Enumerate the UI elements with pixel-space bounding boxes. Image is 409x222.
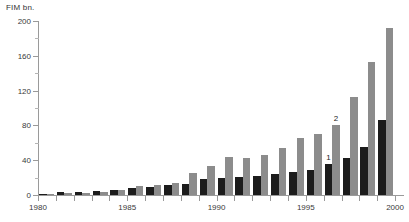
bar-series-2 [154,185,161,195]
x-axis-tick [145,196,146,201]
bar-series-2 [279,148,286,195]
bar-series-2 [243,158,250,195]
y-axis-tick-label: 40 [0,156,31,165]
bar-series-2 [225,157,232,195]
bar-series-2 [314,134,321,195]
bar-series-2 [332,125,339,195]
y-axis-tick-label: 80 [0,121,31,130]
series-annotation-2: 2 [334,114,338,123]
bar-series-2 [297,138,304,195]
x-axis-tick [324,196,325,201]
bar-series-1 [75,192,82,195]
x-axis-tick [127,196,128,201]
bar-series-1 [235,177,242,195]
bar-series-2 [47,194,54,195]
bar-series-2 [136,186,143,195]
x-axis-tick-label: 1980 [29,203,47,212]
x-axis-tick [163,196,164,201]
bar-series-1 [57,192,64,195]
bar-series-2 [207,166,214,195]
x-axis-tick [306,196,307,201]
bar-series-1 [128,188,135,195]
y-axis-tick-label: 0 [0,191,31,200]
bar-series-2 [82,193,89,195]
y-axis-tick-label: 120 [0,86,31,95]
bar-series-1 [164,185,171,195]
x-axis-tick [342,196,343,201]
x-axis-tick [359,196,360,201]
bar-series-2 [64,193,71,195]
bar-series-1 [39,194,46,195]
x-axis-tick [377,196,378,201]
bar-series-1 [93,191,100,195]
x-axis-tick [288,196,289,201]
bar-series-1 [343,158,350,195]
x-axis-tick [395,196,396,201]
bar-series-2 [118,190,125,195]
x-axis-tick [74,196,75,201]
x-axis-tick [56,196,57,201]
bar-series-2 [350,97,357,195]
y-axis-tick-label: 160 [0,51,31,60]
bar-series-1 [307,170,314,195]
bar-series-2 [189,173,196,195]
x-axis-tick [270,196,271,201]
bar-series-1 [218,178,225,195]
y-axis-tick-label: 200 [0,17,31,26]
bar-series-1 [325,164,332,195]
bar-series-1 [200,179,207,195]
bar-series-1 [110,190,117,195]
x-axis-line [38,195,404,196]
bar-series-1 [378,120,385,195]
bar-series-1 [182,184,189,195]
x-axis-tick [234,196,235,201]
bar-series-2 [100,192,107,195]
bar-series-2 [172,183,179,195]
y-axis-unit-label: FIM bn. [6,3,35,12]
x-axis-tick-label: 1990 [208,203,226,212]
bar-series-2 [261,155,268,195]
x-axis-tick-label: 1995 [297,203,315,212]
x-axis-tick [199,196,200,201]
bar-series-1 [360,147,367,195]
x-axis-tick [109,196,110,201]
bar-series-2 [386,28,393,195]
plot-area [38,21,404,195]
bar-series-1 [271,174,278,195]
bar-series-2 [368,62,375,195]
bar-series-1 [146,187,153,195]
bar-series-1 [253,176,260,195]
x-axis-tick [38,196,39,201]
x-axis-tick-label: 1985 [118,203,136,212]
bar-chart: FIM bn. 04080120160200 19801985199019952… [0,0,409,222]
bar-series-1 [289,172,296,195]
series-annotation-1: 1 [326,153,330,162]
x-axis-tick [181,196,182,201]
x-axis-tick [252,196,253,201]
x-axis-tick-label: 2000 [386,203,404,212]
x-axis-tick [92,196,93,201]
x-axis-tick [217,196,218,201]
